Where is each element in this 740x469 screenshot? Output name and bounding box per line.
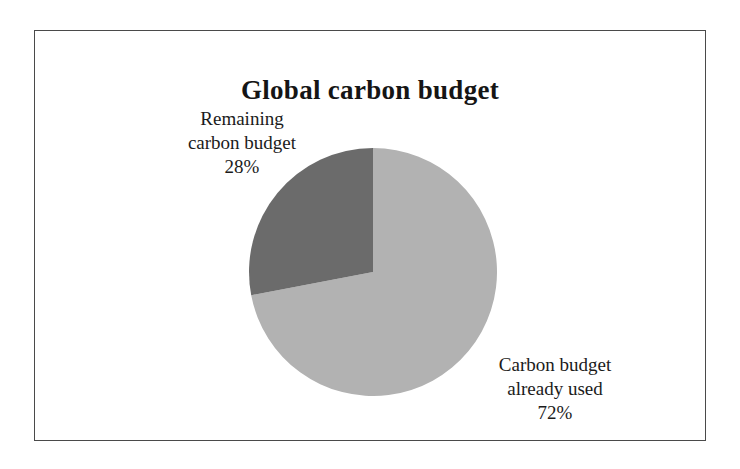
pie-label-remaining-line2: carbon budget xyxy=(147,131,337,155)
chart-frame: Global carbon budget Remaining carbon bu… xyxy=(34,30,706,441)
pie-label-used-line2: already used xyxy=(445,377,665,401)
pie-label-remaining-line1: Remaining xyxy=(147,107,337,131)
page-title: Global carbon budget xyxy=(35,75,705,106)
pie-label-remaining-carbon-budget: Remaining carbon budget 28% xyxy=(147,107,337,179)
chart-page: Global carbon budget Remaining carbon bu… xyxy=(0,0,740,469)
pie-label-remaining-percent: 28% xyxy=(147,155,337,179)
pie-label-used-percent: 72% xyxy=(445,401,665,425)
pie-label-used-line1: Carbon budget xyxy=(445,353,665,377)
pie-label-carbon-budget-already-used: Carbon budget already used 72% xyxy=(445,353,665,425)
